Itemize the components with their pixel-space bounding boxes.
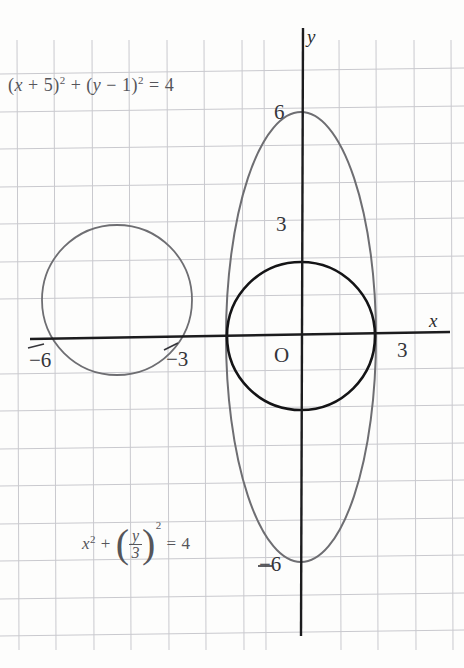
eq1-var-x: x (15, 75, 24, 95)
y-axis (301, 28, 303, 636)
eq2-open-paren: ( (116, 520, 130, 567)
coordinate-plane (0, 0, 464, 668)
x-tick-label-minus3: −3 (166, 347, 188, 372)
eq1-exponent-2: 2 (138, 74, 144, 86)
eq1-plus-mid: + (71, 75, 82, 95)
eq2-numerator: y (129, 528, 142, 544)
eq2-rhs: 4 (181, 534, 190, 553)
grid-lines (0, 40, 464, 650)
eq2-close-paren: ) (142, 520, 156, 567)
equation-circle-left: (x + 5)2 + (y − 1)2 = 4 (8, 74, 174, 96)
eq1-plus: + (28, 75, 39, 95)
eq2-fraction: y3 (129, 528, 142, 562)
y-tick-label-6: 6 (274, 100, 285, 125)
eq2-denominator: 3 (129, 544, 142, 561)
eq2-var-x: x (82, 534, 90, 553)
x-tick-label-3: 3 (397, 338, 408, 363)
eq1-exponent-1: 2 (60, 74, 66, 86)
equation-ellipse: x2 + (y3)2 = 4 (82, 522, 190, 569)
eq2-plus: + (101, 534, 111, 553)
eq1-equals: = (149, 75, 160, 95)
eq1-var-y: y (93, 75, 102, 95)
eq2-exponent-1: 2 (90, 533, 96, 545)
eq1-rhs: 4 (165, 75, 175, 95)
eq1-minus: − (106, 75, 117, 95)
eq2-equals: = (167, 534, 177, 553)
graph-figure: x y O −6 −3 3 6 3 −6 (x + 5)2 + (y − 1)2… (0, 0, 464, 668)
y-tick-label-3: 3 (276, 212, 287, 237)
y-axis-label: y (307, 26, 315, 48)
y-tick-label-minus6: −6 (259, 552, 281, 577)
x-tick-label-minus6: −6 (29, 348, 51, 373)
origin-label: O (274, 343, 289, 368)
x-axis-label: x (429, 310, 437, 332)
eq2-exponent-2: 2 (156, 519, 162, 531)
eq1-five: 5 (44, 75, 54, 95)
